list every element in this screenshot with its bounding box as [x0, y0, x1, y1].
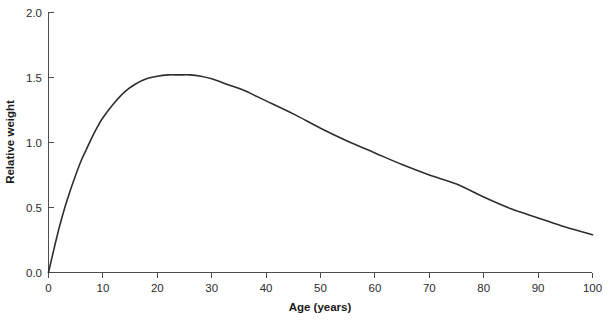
- x-tick-label-20: 20: [151, 282, 164, 294]
- x-tick-label-0: 0: [45, 282, 51, 294]
- y-tick-label-2-0: 2.0: [26, 7, 42, 19]
- chart-figure: 2.0 1.5 1.0 0.5 0.0 0 10 20 30 40 50 60 …: [0, 0, 609, 322]
- y-axis-title: Relative weight: [4, 100, 16, 184]
- x-tick-label-30: 30: [205, 282, 218, 294]
- x-axis-title: Age (years): [289, 301, 352, 313]
- y-tick-label-1-0: 1.0: [26, 137, 42, 149]
- x-tick-label-10: 10: [97, 282, 110, 294]
- y-tick-label-1-5: 1.5: [26, 72, 42, 84]
- relative-weight-line-chart: 2.0 1.5 1.0 0.5 0.0 0 10 20 30 40 50 60 …: [0, 0, 609, 322]
- x-tick-label-80: 80: [477, 282, 490, 294]
- x-tick-label-50: 50: [314, 282, 327, 294]
- x-tick-label-90: 90: [532, 282, 545, 294]
- x-tick-label-40: 40: [260, 282, 273, 294]
- chart-background: [0, 0, 609, 322]
- y-tick-label-0-0: 0.0: [26, 267, 42, 279]
- x-tick-label-60: 60: [369, 282, 382, 294]
- y-tick-label-0-5: 0.5: [26, 202, 42, 214]
- x-tick-label-100: 100: [583, 282, 602, 294]
- x-tick-label-70: 70: [423, 282, 436, 294]
